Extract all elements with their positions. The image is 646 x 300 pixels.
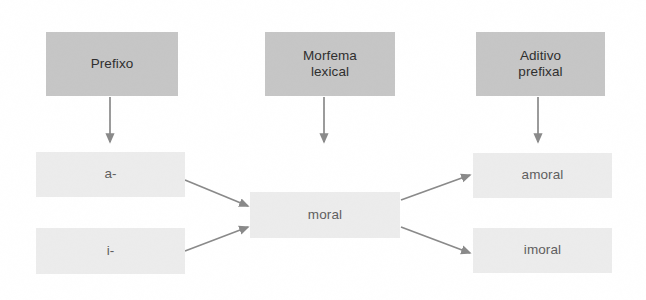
result-label-imoral: imoral bbox=[520, 242, 565, 258]
diagram-canvas: Prefixo Morfema lexical Aditivo prefixal… bbox=[0, 0, 646, 300]
prefix-box-a: a- bbox=[36, 152, 185, 197]
base-box-moral: moral bbox=[250, 192, 400, 238]
category-box-aditivo-prefixal: Aditivo prefixal bbox=[476, 32, 605, 96]
result-label-amoral: amoral bbox=[518, 167, 568, 183]
category-label-prefixo: Prefixo bbox=[87, 56, 138, 72]
category-box-prefixo: Prefixo bbox=[46, 32, 178, 96]
prefix-label-a: a- bbox=[100, 166, 120, 182]
result-box-imoral: imoral bbox=[473, 228, 612, 273]
arrow-moral-to-amoral bbox=[401, 175, 470, 200]
arrow-a-to-moral bbox=[185, 180, 248, 206]
prefix-box-i: i- bbox=[36, 228, 185, 274]
base-label-moral: moral bbox=[304, 207, 346, 223]
arrow-i-to-moral bbox=[185, 227, 248, 251]
result-box-amoral: amoral bbox=[473, 153, 612, 198]
category-box-morfema-lexical: Morfema lexical bbox=[265, 32, 395, 96]
category-label-aditivo-prefixal: Aditivo prefixal bbox=[514, 48, 566, 81]
category-label-morfema-lexical: Morfema lexical bbox=[299, 48, 361, 81]
prefix-label-i: i- bbox=[103, 243, 119, 259]
arrow-moral-to-imoral bbox=[401, 227, 470, 253]
